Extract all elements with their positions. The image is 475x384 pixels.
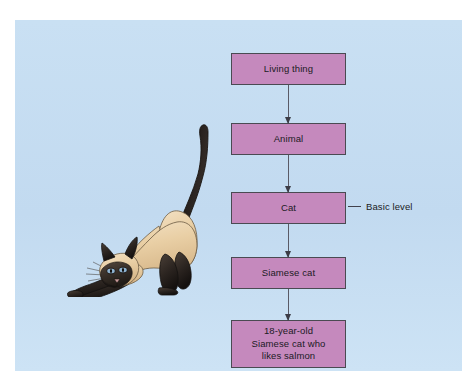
hierarchy-node-siamese-cat[interactable]: Siamese cat (231, 257, 346, 289)
hierarchy-node-label: 18-year-old Siamese cat who likes salmon (232, 325, 345, 363)
siamese-cat-illustration (67, 112, 232, 297)
basic-level-label: Basic level (366, 201, 413, 212)
hierarchy-node-label: Living thing (232, 63, 345, 76)
basic-level-annotation: Basic level (348, 201, 413, 212)
figure-root: Living thing Animal Cat Siamese cat 18-y… (0, 0, 475, 384)
arrow-connector-down (288, 224, 290, 257)
hierarchy-node-label: Siamese cat (232, 267, 345, 280)
hierarchy-node-living-thing[interactable]: Living thing (231, 53, 346, 85)
cat-pupil-left-shape (110, 269, 112, 273)
hierarchy-node-label: Cat (232, 202, 345, 215)
arrow-connector-down (288, 85, 290, 123)
cat-front-paw-shape (67, 291, 83, 298)
arrow-connector-down (288, 155, 290, 192)
leader-line (348, 206, 361, 208)
hierarchy-node-specific-cat[interactable]: 18-year-old Siamese cat who likes salmon (231, 320, 346, 368)
arrow-connector-down (288, 289, 290, 320)
cat-pupil-right-shape (122, 268, 124, 272)
hierarchy-node-label: Animal (232, 133, 345, 146)
hierarchy-node-animal[interactable]: Animal (231, 123, 346, 155)
hierarchy-node-cat[interactable]: Cat (231, 192, 346, 224)
illustration-panel: Living thing Animal Cat Siamese cat 18-y… (15, 20, 462, 371)
